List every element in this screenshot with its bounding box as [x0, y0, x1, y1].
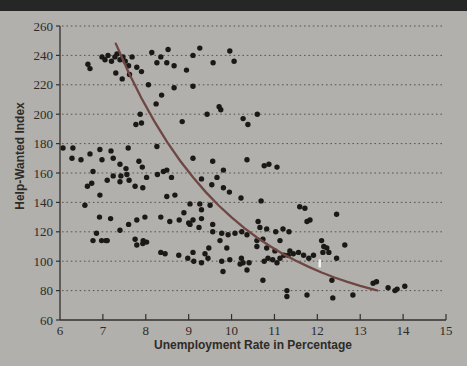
data-point	[123, 166, 128, 171]
data-point	[113, 70, 118, 75]
data-point	[184, 67, 189, 72]
data-point	[206, 245, 211, 250]
data-point	[82, 203, 87, 208]
data-point	[140, 185, 145, 190]
scatter-chart: 6789101112131415608010012014016018020022…	[0, 0, 467, 366]
data-point	[306, 256, 311, 261]
data-point	[117, 228, 122, 233]
data-point	[326, 250, 331, 255]
data-point	[350, 292, 355, 297]
x-tick-label: 8	[143, 323, 150, 338]
data-point	[78, 157, 83, 162]
data-point	[209, 182, 214, 187]
data-point	[138, 112, 143, 117]
data-point	[190, 217, 195, 222]
data-point	[159, 92, 164, 97]
data-point	[374, 279, 379, 284]
data-point	[221, 167, 226, 172]
data-point	[87, 66, 92, 71]
data-point	[199, 176, 204, 181]
data-point	[244, 267, 249, 272]
data-point	[197, 45, 202, 50]
data-point	[264, 226, 269, 231]
data-point	[90, 238, 95, 243]
data-point	[97, 147, 102, 152]
data-point	[240, 116, 245, 121]
data-point	[99, 157, 104, 162]
data-point	[190, 84, 195, 89]
data-point	[124, 172, 129, 177]
data-point	[246, 260, 251, 265]
data-point	[142, 214, 147, 219]
trend-curve	[116, 44, 378, 291]
data-point	[108, 148, 113, 153]
data-point	[304, 292, 309, 297]
data-point	[239, 229, 244, 234]
data-point	[117, 179, 122, 184]
y-tick-label: 160	[34, 166, 54, 181]
data-point	[231, 59, 236, 64]
y-tick-label: 120	[34, 224, 54, 239]
y-tick-label: 80	[40, 283, 53, 298]
data-point	[169, 175, 174, 180]
data-point	[153, 101, 158, 106]
data-point	[165, 47, 170, 52]
data-point	[286, 229, 291, 234]
x-tick-label: 9	[185, 323, 192, 338]
data-point	[207, 203, 212, 208]
data-point	[254, 244, 259, 249]
data-point	[134, 242, 139, 247]
chart-canvas: 6789101112131415608010012014016018020022…	[0, 0, 467, 366]
data-point	[219, 231, 224, 236]
data-point	[196, 225, 201, 230]
data-point	[238, 195, 243, 200]
data-point	[227, 48, 232, 53]
data-point	[330, 295, 335, 300]
data-point	[102, 57, 107, 62]
data-point	[144, 239, 149, 244]
data-point	[280, 226, 285, 231]
data-point	[164, 167, 169, 172]
data-point	[118, 173, 123, 178]
data-point	[217, 238, 222, 243]
data-point	[210, 222, 215, 227]
data-point	[180, 119, 185, 124]
data-point	[190, 250, 195, 255]
x-tick-label: 11	[268, 323, 281, 338]
data-point	[90, 169, 95, 174]
data-point	[134, 65, 139, 70]
data-point	[134, 217, 139, 222]
data-point	[219, 259, 224, 264]
data-point	[87, 151, 92, 156]
y-tick-label: 60	[40, 313, 53, 328]
data-point	[108, 216, 113, 221]
data-point	[136, 159, 141, 164]
data-point	[266, 162, 271, 167]
data-point	[111, 173, 116, 178]
data-point	[155, 172, 160, 177]
data-point	[277, 238, 282, 243]
data-point	[190, 156, 195, 161]
x-tick-label: 12	[311, 323, 324, 338]
data-point	[162, 251, 167, 256]
data-point	[210, 229, 215, 234]
data-point	[139, 120, 144, 125]
data-point	[120, 76, 125, 81]
data-point	[260, 278, 265, 283]
data-point	[158, 54, 163, 59]
data-point	[164, 60, 169, 65]
x-tick-label: 13	[354, 323, 367, 338]
data-point	[199, 260, 204, 265]
data-point	[257, 225, 262, 230]
data-point	[255, 219, 260, 224]
y-tick-label: 140	[34, 195, 54, 210]
data-point	[402, 284, 407, 289]
data-point	[94, 231, 99, 236]
y-tick-label: 200	[34, 107, 54, 122]
data-point	[214, 175, 219, 180]
data-point	[144, 175, 149, 180]
data-point	[132, 237, 137, 242]
data-point	[70, 145, 75, 150]
data-point	[126, 222, 131, 227]
data-point	[190, 53, 195, 58]
